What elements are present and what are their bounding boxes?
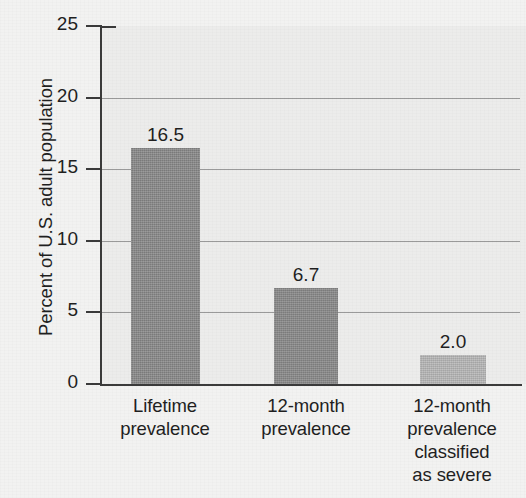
y-axis-tick-label-5: 5 [18, 299, 78, 321]
x-axis-label: 12-monthprevalence [236, 394, 376, 440]
x-axis-label-line: prevalence [382, 417, 522, 440]
bar-value-label: 2.0 [413, 331, 493, 353]
x-axis-label-line: classified [382, 440, 522, 463]
bar-value-label: 6.7 [266, 264, 346, 286]
y-axis-tick-5 [86, 311, 102, 313]
y-axis-tick-label-0: 0 [18, 371, 78, 393]
x-axis-label: 12-monthprevalenceclassifiedas severe [382, 394, 522, 486]
y-axis-tick-label-15: 15 [18, 156, 78, 178]
y-axis-tick-15 [86, 168, 102, 170]
y-axis-tick-0 [86, 383, 102, 385]
x-axis-label-line: prevalence [236, 417, 376, 440]
gridline-20 [100, 98, 520, 99]
chart-figure: severe Percent of U.S. adult population … [0, 0, 526, 498]
x-axis-label-line: as severe [382, 463, 522, 486]
bar-value-label: 16.5 [126, 124, 206, 146]
y-axis-tick-label-20: 20 [18, 85, 78, 107]
bar [131, 148, 200, 384]
x-axis-label-line: prevalence [95, 417, 235, 440]
bar-texture [274, 288, 338, 384]
y-axis-tick-label-25: 25 [18, 13, 78, 35]
y-axis-line [100, 26, 102, 386]
bar [420, 355, 486, 384]
x-axis-line [100, 384, 522, 386]
bar-texture [131, 148, 200, 384]
x-axis-label-line: 12-month [236, 394, 376, 417]
x-axis-label-line: Lifetime [95, 394, 235, 417]
bar [274, 288, 338, 384]
y-axis-title: Percent of U.S. adult population [35, 27, 57, 387]
y-axis-tick-label-10: 10 [18, 228, 78, 250]
bar-texture [420, 355, 486, 384]
y-axis-top-cap [100, 26, 116, 28]
x-axis-label-line: 12-month [382, 394, 522, 417]
y-axis-tick-25 [86, 25, 102, 27]
y-axis-tick-20 [86, 97, 102, 99]
y-axis-tick-10 [86, 240, 102, 242]
x-axis-label: Lifetimeprevalence [95, 394, 235, 440]
